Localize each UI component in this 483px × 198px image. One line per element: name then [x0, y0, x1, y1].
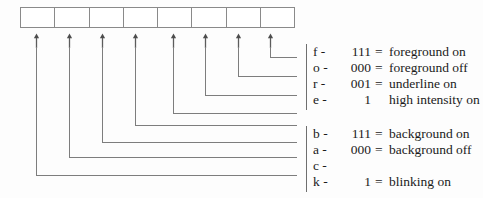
attribute-byte-row	[20, 7, 295, 28]
label-eq-b: =	[375, 126, 383, 142]
label-eq-k: =	[375, 174, 383, 190]
label-eq-r: =	[375, 76, 383, 92]
background-label-group: b - 111 = background on a - 000 = backgr…	[306, 126, 313, 192]
label-desc-e: high intensity on	[389, 92, 480, 108]
label-eq-a: =	[375, 142, 383, 158]
label-code-r: 001	[341, 76, 371, 92]
label-desc-k: blinking on	[389, 174, 451, 190]
byte-cell	[124, 8, 158, 27]
label-key-f: f -	[313, 44, 339, 60]
label-desc-a: background off	[389, 142, 472, 158]
label-desc-r: underline on	[389, 76, 457, 92]
label-desc-b: background on	[389, 126, 470, 142]
label-key-b: b -	[313, 126, 339, 142]
byte-cell	[21, 8, 55, 27]
label-code-a: 000	[341, 142, 371, 158]
label-code-o: 000	[341, 60, 371, 76]
byte-cell	[261, 8, 294, 27]
label-eq-o: =	[375, 60, 383, 76]
label-eq-f: =	[375, 44, 383, 60]
diagram-canvas: f - 111 = foreground on o - 000 = foregr…	[0, 0, 483, 198]
label-desc-f: foreground on	[389, 44, 466, 60]
byte-cell	[192, 8, 226, 27]
byte-cell	[55, 8, 89, 27]
label-key-r: r -	[313, 76, 339, 92]
label-code-e: 1	[341, 92, 371, 108]
label-code-f: 111	[341, 44, 371, 60]
byte-cell	[90, 8, 124, 27]
label-key-e: e -	[313, 92, 339, 108]
label-code-k: 1	[341, 174, 371, 190]
label-key-k: k -	[313, 174, 339, 190]
label-desc-o: foreground off	[389, 60, 468, 76]
foreground-label-group: f - 111 = foreground on o - 000 = foregr…	[306, 44, 313, 110]
byte-cell	[227, 8, 261, 27]
label-code-b: 111	[341, 126, 371, 142]
label-key-o: o -	[313, 60, 339, 76]
label-key-c: c -	[313, 158, 339, 174]
label-key-a: a -	[313, 142, 339, 158]
byte-cell	[158, 8, 192, 27]
